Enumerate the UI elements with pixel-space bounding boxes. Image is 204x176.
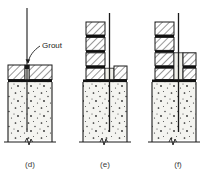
masonry-unit bbox=[183, 53, 196, 66]
caption-d: (d) bbox=[25, 160, 35, 169]
cap-block-right-d bbox=[29, 65, 52, 80]
masonry-unit bbox=[155, 22, 174, 35]
cap-block-right-e bbox=[114, 66, 127, 80]
masonry-unit bbox=[155, 68, 174, 79]
masonry-stack-left-f bbox=[155, 22, 174, 80]
grout-label: Grout bbox=[42, 41, 63, 50]
masonry-unit bbox=[155, 53, 174, 66]
engineering-detail-figure: Grout bbox=[0, 0, 204, 176]
concrete-column-e bbox=[83, 82, 127, 140]
masonry-stack-right-f bbox=[183, 53, 196, 80]
masonry-unit bbox=[86, 53, 105, 66]
concrete-column-d bbox=[8, 82, 52, 140]
caption-e: (e) bbox=[100, 160, 110, 169]
masonry-unit bbox=[183, 68, 196, 79]
cap-block-left-d bbox=[8, 65, 25, 80]
masonry-stack-left-e bbox=[86, 22, 105, 80]
masonry-unit bbox=[86, 37, 105, 50]
concrete-column-f bbox=[152, 82, 196, 140]
masonry-unit bbox=[155, 37, 174, 50]
masonry-unit bbox=[86, 22, 105, 35]
caption-f: (f) bbox=[174, 160, 182, 169]
masonry-unit bbox=[86, 68, 105, 79]
detail-drawing-canvas: Grout bbox=[0, 0, 204, 176]
